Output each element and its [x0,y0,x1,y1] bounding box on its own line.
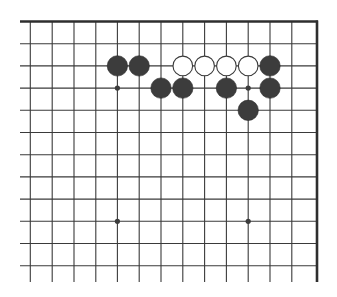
star-point [246,219,251,224]
black-stone [151,78,171,98]
black-stone [260,78,280,98]
black-stone [260,56,280,76]
black-stone [216,78,236,98]
black-stone [129,56,149,76]
black-stone [173,78,193,98]
black-stone [107,56,127,76]
star-point [115,219,120,224]
white-stone [173,56,193,76]
go-board [0,0,337,297]
white-stone [217,56,237,76]
go-board-canvas [0,0,337,297]
white-stone [238,56,258,76]
star-point [246,86,251,91]
black-stone [238,100,258,120]
white-stone [195,56,215,76]
star-point [115,86,120,91]
